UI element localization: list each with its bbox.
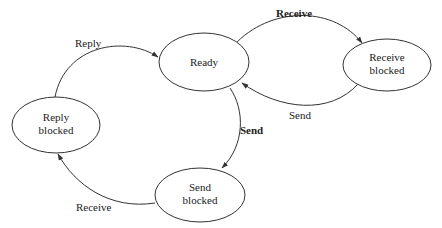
- state-diagram: Ready Receive blocked Reply blocked Send…: [0, 0, 442, 228]
- edge-label-reply: Reply: [75, 37, 102, 49]
- edge-label-send-middle: Send: [240, 124, 263, 136]
- state-receive-blocked-label-line2: blocked: [370, 64, 405, 76]
- edge-ready-to-receive-blocked: [237, 15, 362, 43]
- state-reply-blocked-label-line2: blocked: [39, 124, 74, 136]
- edge-label-send-bottom: Send: [289, 109, 312, 121]
- state-ready: Ready: [159, 33, 249, 91]
- edge-receive-blocked-to-ready: [242, 83, 358, 105]
- state-reply-blocked-label-line1: Reply: [43, 111, 70, 123]
- edge-label-receive-bottom: Receive: [76, 201, 112, 213]
- edge-label-receive-top: Receive: [276, 7, 312, 19]
- state-receive-blocked: Receive blocked: [343, 39, 431, 91]
- edge-ready-to-send-blocked: [222, 88, 240, 168]
- state-send-blocked-label-line1: Send: [189, 181, 212, 193]
- state-reply-blocked: Reply blocked: [12, 97, 100, 153]
- edge-reply-blocked-to-ready: [55, 46, 158, 97]
- edge-send-blocked-to-reply-blocked: [58, 154, 155, 204]
- state-send-blocked: Send blocked: [155, 168, 245, 222]
- state-ready-label: Ready: [190, 56, 219, 68]
- state-send-blocked-label-line2: blocked: [183, 194, 218, 206]
- state-receive-blocked-label-line1: Receive: [369, 51, 405, 63]
